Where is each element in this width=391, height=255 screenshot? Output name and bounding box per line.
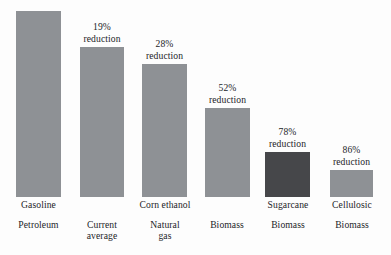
cat-top-sugarcane-biomass: Sugarcane xyxy=(256,197,320,212)
bar-rect-sugarcane-biomass xyxy=(265,152,310,197)
bar-pct-current-average: 19% xyxy=(83,21,120,32)
bar-rect-cellulosic-biomass xyxy=(330,170,373,197)
bar-reduction-word-corn-ethanol-natural-gas: reduction xyxy=(146,50,183,61)
bar-rect-corn-ethanol-natural-gas xyxy=(142,64,187,197)
cat-top-gasoline-petroleum: Gasoline xyxy=(6,197,71,212)
cat-label-cellulosic-biomass: Cellulosic Biomass xyxy=(320,197,384,230)
cat-bottom-a-gasoline-petroleum: Petroleum xyxy=(6,219,71,230)
cat-label-corn-ethanol-natural-gas: Corn ethanol Natural gas xyxy=(132,197,198,242)
cat-bottom-a-current-average: Current xyxy=(70,219,134,230)
cat-bottom-b-corn-ethanol-natural-gas: gas xyxy=(132,230,198,241)
cat-bottom-b-current-average: average xyxy=(70,230,134,241)
bar-group-corn-ethanol-natural-gas: 28% reduction xyxy=(142,64,187,197)
cat-label-biomass: Biomass xyxy=(196,197,258,230)
bar-reduction-word-cellulosic-biomass: reduction xyxy=(333,156,370,167)
bar-group-sugarcane-biomass: 78% reduction xyxy=(265,152,310,197)
bar-label-current-average: 19% reduction xyxy=(83,21,120,44)
cat-bottom-sugarcane-biomass: Biomass xyxy=(256,212,320,230)
bar-label-biomass: 52% reduction xyxy=(209,82,246,105)
cat-bottom-current-average: Current average xyxy=(70,212,134,242)
bar-label-cellulosic-biomass: 86% reduction xyxy=(333,144,370,167)
cat-bottom-a-sugarcane-biomass: Biomass xyxy=(256,219,320,230)
bar-pct-cellulosic-biomass: 86% xyxy=(333,144,370,155)
cat-label-current-average: Current average xyxy=(70,197,134,242)
cat-label-gasoline-petroleum: Gasoline Petroleum xyxy=(6,197,71,230)
cat-bottom-biomass: Biomass xyxy=(196,212,258,230)
bar-reduction-word-current-average: reduction xyxy=(83,33,120,44)
bar-group-biomass: 52% reduction xyxy=(205,108,250,197)
bar-rect-biomass xyxy=(205,108,250,197)
bar-group-gasoline-petroleum xyxy=(16,11,61,197)
bar-chart: 19% reduction 28% reduction 52% reductio… xyxy=(0,0,391,255)
bar-label-sugarcane-biomass: 78% reduction xyxy=(269,126,306,149)
cat-bottom-a-biomass: Biomass xyxy=(196,219,258,230)
cat-bottom-corn-ethanol-natural-gas: Natural gas xyxy=(132,212,198,242)
cat-bottom-a-cellulosic-biomass: Biomass xyxy=(320,219,384,230)
bar-pct-sugarcane-biomass: 78% xyxy=(269,126,306,137)
cat-label-sugarcane-biomass: Sugarcane Biomass xyxy=(256,197,320,230)
bar-rect-gasoline-petroleum xyxy=(16,11,61,197)
bar-label-corn-ethanol-natural-gas: 28% reduction xyxy=(146,38,183,61)
bar-group-current-average: 19% reduction xyxy=(80,47,124,197)
bar-reduction-word-sugarcane-biomass: reduction xyxy=(269,138,306,149)
cat-top-current-average xyxy=(70,197,134,212)
cat-top-biomass xyxy=(196,197,258,212)
cat-top-corn-ethanol-natural-gas: Corn ethanol xyxy=(132,197,198,212)
cat-bottom-gasoline-petroleum: Petroleum xyxy=(6,212,71,230)
bar-pct-biomass: 52% xyxy=(209,82,246,93)
bar-reduction-word-biomass: reduction xyxy=(209,94,246,105)
bar-pct-corn-ethanol-natural-gas: 28% xyxy=(146,38,183,49)
cat-top-cellulosic-biomass: Cellulosic xyxy=(320,197,384,212)
cat-bottom-a-corn-ethanol-natural-gas: Natural xyxy=(132,219,198,230)
plot-area: 19% reduction 28% reduction 52% reductio… xyxy=(0,0,391,197)
cat-bottom-cellulosic-biomass: Biomass xyxy=(320,212,384,230)
bar-group-cellulosic-biomass: 86% reduction xyxy=(330,170,373,197)
bar-rect-current-average xyxy=(80,47,124,197)
category-axis-labels: Gasoline Petroleum Current average Corn … xyxy=(0,197,391,255)
